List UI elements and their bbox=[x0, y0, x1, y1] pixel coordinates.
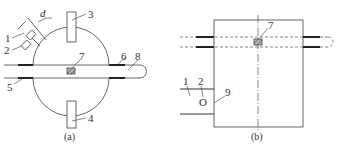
waveguide-b bbox=[180, 89, 214, 114]
label-7b: 7 bbox=[268, 19, 274, 31]
probe-bottom bbox=[67, 101, 76, 128]
label-d: d bbox=[40, 7, 46, 19]
seal-right bbox=[109, 65, 125, 78]
caption-a: (a) bbox=[64, 131, 75, 143]
seal-left bbox=[18, 65, 33, 78]
port-symbol: O bbox=[199, 96, 207, 108]
label-7: 7 bbox=[79, 50, 85, 62]
cavity-rect bbox=[214, 20, 303, 127]
label-9: 9 bbox=[225, 86, 231, 98]
label-5: 5 bbox=[7, 81, 13, 93]
label-2b: 2 bbox=[198, 75, 204, 87]
label-3: 3 bbox=[88, 8, 94, 20]
figure-canvas: 1 2 d 3 4 5 6 8 7 (a) 7 bbox=[0, 0, 338, 150]
label-4: 4 bbox=[88, 112, 94, 124]
probe-top bbox=[67, 12, 76, 42]
panel-b: 7 O 1 2 9 (b) bbox=[180, 15, 333, 143]
sample bbox=[67, 68, 75, 74]
panel-a: 1 2 d 3 4 5 6 8 7 (a) bbox=[4, 7, 147, 143]
label-2: 2 bbox=[4, 44, 10, 56]
leader-7b bbox=[258, 28, 268, 40]
caption-b: (b) bbox=[251, 131, 263, 143]
label-1b: 1 bbox=[183, 75, 189, 87]
label-1: 1 bbox=[5, 32, 11, 44]
label-8: 8 bbox=[135, 50, 141, 62]
label-6: 6 bbox=[121, 50, 127, 62]
diagram-svg: 1 2 d 3 4 5 6 8 7 (a) 7 bbox=[0, 0, 338, 150]
